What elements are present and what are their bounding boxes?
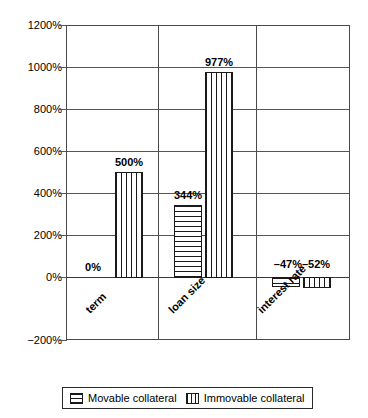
y-tick-mark-neg200 <box>59 340 67 341</box>
bar-label-loan-movable: 344% <box>166 190 210 201</box>
y-tick-label-400: 400% <box>0 188 62 199</box>
y-tick-label-1000: 1000% <box>0 62 62 73</box>
bar-label-term-movable: 0% <box>71 262 115 273</box>
bar-label-loan-immovable: 977% <box>197 57 241 68</box>
category-divider-1 <box>158 26 159 339</box>
bar-loan-immovable <box>205 72 233 278</box>
y-tick-label-neg200: −200% <box>0 335 62 346</box>
y-tick-label-1200: 1200% <box>0 20 62 31</box>
legend-label-movable: Movable collateral <box>88 392 177 404</box>
legend-swatch-horizontal-hatch-icon <box>70 393 83 404</box>
y-tick-label-200: 200% <box>0 230 62 241</box>
legend: Movable collateral Immovable collateral <box>62 387 313 409</box>
bar-loan-movable <box>174 205 202 278</box>
legend-swatch-vertical-hatch-icon <box>186 393 199 404</box>
plot-area: 0% 500% 344% 977% –47%–52% <box>66 25 350 340</box>
y-tick-label-600: 600% <box>0 146 62 157</box>
bar-interest-immovable <box>303 277 331 288</box>
legend-item-immovable: Immovable collateral <box>186 392 305 404</box>
legend-label-immovable: Immovable collateral <box>204 392 305 404</box>
bar-term-immovable <box>115 172 143 278</box>
bar-label-term-immovable: 500% <box>107 157 151 168</box>
y-tick-label-800: 800% <box>0 104 62 115</box>
category-divider-2 <box>256 26 257 339</box>
bar-chart: 1200% 1000% 800% 600% 400% 200% 0% −200%… <box>0 0 368 418</box>
legend-item-movable: Movable collateral <box>70 392 177 404</box>
y-tick-label-0: 0% <box>0 272 62 283</box>
